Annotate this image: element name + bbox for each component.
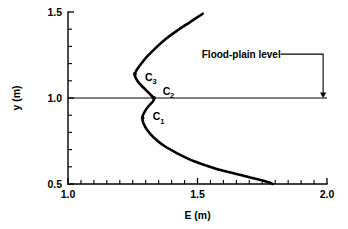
critical-point-subscript: 2 — [170, 91, 174, 100]
x-axis-title: E (m) — [184, 209, 210, 221]
x-tick-label: 1.5 — [190, 188, 205, 200]
flood-plain-level-label: Flood-plain level — [202, 49, 281, 60]
y-axis-title: y (m) — [10, 85, 22, 110]
critical-point-marker — [141, 116, 145, 120]
chart-canvas: 0.51.01.5 1.01.52.0 C3C2C1 Flood-plain l… — [0, 0, 348, 229]
x-tick-label: 2.0 — [320, 188, 335, 200]
x-tick-label: 1.0 — [61, 188, 76, 200]
critical-point-subscript: 1 — [160, 117, 164, 126]
critical-point-label: C3 — [145, 71, 157, 86]
specific-energy-chart: 0.51.01.5 1.01.52.0 C3C2C1 Flood-plain l… — [0, 0, 348, 229]
critical-point-marker — [152, 96, 156, 100]
y-tick-label: 1.0 — [47, 92, 62, 104]
critical-point-label: C1 — [153, 110, 165, 125]
flood-plain-leader-line — [281, 54, 323, 93]
flood-plain-arrow-icon — [320, 93, 326, 99]
critical-point-marker — [133, 72, 137, 76]
y-axis-tick-labels: 0.51.01.5 — [47, 6, 62, 190]
y-tick-label: 1.5 — [47, 6, 62, 18]
critical-point-subscript: 3 — [152, 77, 156, 86]
x-axis-tick-labels: 1.01.52.0 — [61, 188, 335, 200]
